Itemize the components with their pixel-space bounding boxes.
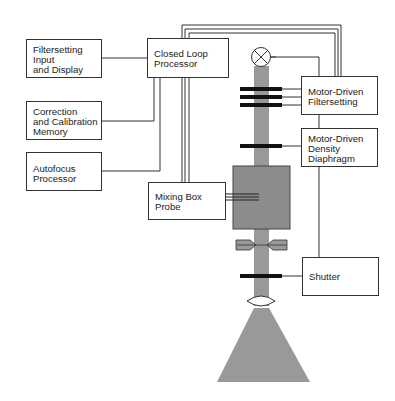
- connector-autofocus-closedloop: [101, 77, 160, 171]
- block-closed-loop-processor: Closed Loop Processor: [147, 38, 229, 78]
- block-correction-memory: Correction and Calibration Memory: [26, 101, 102, 140]
- block-density-diaphragm: Motor-Driven Density Diaphragm: [301, 128, 378, 167]
- block-label-line: Processor: [154, 59, 228, 69]
- block-label-line: Memory: [33, 127, 101, 137]
- block-label-line: Probe: [155, 202, 225, 212]
- block-label-line: Processor: [33, 174, 101, 184]
- block-mixing-box-probe: Mixing Box Probe: [148, 182, 226, 220]
- lamp-icon: [252, 48, 271, 67]
- connector-correction-closedloop: [101, 77, 154, 121]
- block-shutter: Shutter: [302, 257, 379, 296]
- block-label-line: Diaphragm: [308, 154, 377, 164]
- lens-icon: [247, 296, 275, 306]
- block-motor-filtersetting: Motor-Driven Filtersetting: [301, 76, 378, 115]
- filter-bar-3: [240, 103, 282, 107]
- block-label-line: Shutter: [309, 272, 378, 282]
- block-label-line: Filtersetting: [308, 97, 377, 107]
- block-autofocus: Autofocus Processor: [26, 152, 102, 191]
- filter-bar-2: [240, 95, 282, 99]
- light-cone: [217, 308, 310, 382]
- shutter-bar: [240, 274, 282, 278]
- block-filtersetting-input: Filtersetting Input and Display: [26, 39, 102, 78]
- density-bar: [240, 144, 282, 148]
- connector-lamp-right: [271, 57, 319, 76]
- filter-bar-1: [240, 87, 282, 91]
- block-label-line: and Display: [33, 65, 101, 75]
